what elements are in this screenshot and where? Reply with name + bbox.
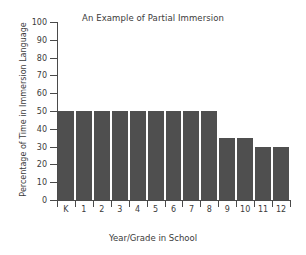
x-tick-label: 8 (207, 205, 212, 214)
x-tick-mark (57, 200, 58, 207)
x-tick-mark (218, 200, 219, 207)
bar[interactable] (201, 111, 217, 200)
y-tick-label: 50 (37, 107, 47, 116)
y-tick-label: 60 (37, 89, 47, 98)
x-tick-mark (272, 200, 273, 207)
x-tick-mark (236, 200, 237, 207)
bar[interactable] (94, 111, 110, 200)
bar-slot (182, 22, 200, 200)
x-tick-label: K (63, 205, 68, 214)
x-tick-label: 7 (189, 205, 194, 214)
x-tick-mark (254, 200, 255, 207)
chart-container: An Example of Partial Immersion Percenta… (0, 0, 306, 255)
y-tick-mark (50, 75, 57, 76)
x-tick-label: 9 (225, 205, 230, 214)
x-tick-mark (290, 200, 291, 207)
x-tick-mark (75, 200, 76, 207)
bar-slot (236, 22, 254, 200)
y-tick-mark (50, 182, 57, 183)
x-tick-label: 4 (135, 205, 140, 214)
y-tick-mark (50, 147, 57, 148)
bar[interactable] (183, 111, 199, 200)
bar-slot (147, 22, 165, 200)
y-tick-label: 100 (32, 18, 47, 27)
y-tick-label: 70 (37, 71, 47, 80)
x-tick-mark (165, 200, 166, 207)
x-tick-label: 1 (81, 205, 86, 214)
bar-slot (218, 22, 236, 200)
bar-slot (254, 22, 272, 200)
bar-series (57, 22, 290, 200)
y-tick-label: 0 (42, 196, 47, 205)
y-tick-mark (50, 58, 57, 59)
y-tick-label: 20 (37, 160, 47, 169)
x-tick-mark (200, 200, 201, 207)
x-tick-mark (129, 200, 130, 207)
y-tick-label: 90 (37, 35, 47, 44)
bar[interactable] (112, 111, 128, 200)
bar-slot (165, 22, 183, 200)
x-tick-mark (182, 200, 183, 207)
y-tick-mark (50, 111, 57, 112)
bar-slot (111, 22, 129, 200)
bar[interactable] (148, 111, 164, 200)
y-tick-label: 80 (37, 53, 47, 62)
y-tick-mark (50, 129, 57, 130)
x-tick-label: 11 (258, 205, 268, 214)
bar-slot (57, 22, 75, 200)
bar-slot (200, 22, 218, 200)
bar[interactable] (219, 138, 235, 200)
bar-slot (75, 22, 93, 200)
x-tick-label: 3 (117, 205, 122, 214)
bar[interactable] (76, 111, 92, 200)
y-tick-mark (50, 200, 57, 201)
y-tick-mark (50, 93, 57, 94)
y-tick-label: 10 (37, 178, 47, 187)
bar[interactable] (166, 111, 182, 200)
x-tick-mark (111, 200, 112, 207)
y-tick-mark (50, 22, 57, 23)
bar[interactable] (58, 111, 74, 200)
y-tick-mark (50, 164, 57, 165)
x-tick-label: 10 (240, 205, 250, 214)
x-tick-label: 6 (171, 205, 176, 214)
x-tick-mark (147, 200, 148, 207)
plot-area: 0102030405060708090100 (57, 22, 290, 200)
bar[interactable] (273, 147, 289, 200)
bar-slot (93, 22, 111, 200)
y-axis-label: Percentage of Time in Immersion Language (19, 15, 28, 205)
bar-slot (272, 22, 290, 200)
bar-slot (129, 22, 147, 200)
bar[interactable] (130, 111, 146, 200)
x-tick-label: 2 (99, 205, 104, 214)
bar[interactable] (237, 138, 253, 200)
x-tick-label: 12 (276, 205, 286, 214)
y-tick-label: 30 (37, 142, 47, 151)
x-tick-label: 5 (153, 205, 158, 214)
bar[interactable] (255, 147, 271, 200)
y-tick-label: 40 (37, 124, 47, 133)
x-axis-label: Year/Grade in School (0, 233, 306, 243)
y-tick-mark (50, 40, 57, 41)
x-tick-mark (93, 200, 94, 207)
